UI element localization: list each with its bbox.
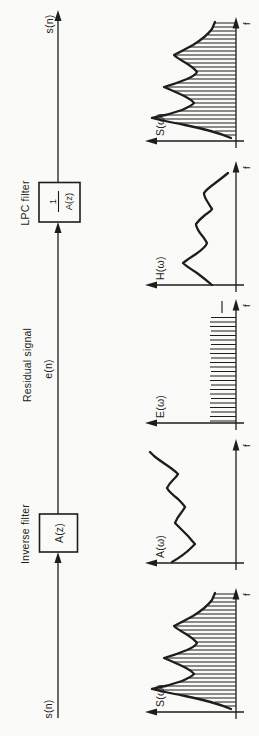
output-signal-label: s(n)	[43, 15, 55, 34]
lpc-filter-title: LPC filter	[19, 180, 31, 225]
lpc-filter-box	[39, 183, 80, 223]
frequency-axis-arrowhead-icon	[233, 299, 240, 311]
arrowhead-output-icon	[55, 10, 62, 21]
amplitude-axis-arrowhead-icon	[145, 281, 157, 288]
input-signal-label: s(n)	[42, 700, 54, 719]
spectrum-label: E(ω)	[154, 395, 166, 418]
spectrum-s-output: S(ω) f	[145, 17, 252, 148]
spectrum-label: H(ω)	[154, 256, 166, 280]
frequency-axis-label: f	[241, 166, 252, 169]
frequency-axis-label: f	[241, 304, 252, 307]
frequency-axis-label: f	[241, 22, 252, 25]
arrowhead-into-lpc-filter-icon	[55, 222, 62, 233]
frequency-axis-label: f	[241, 593, 252, 596]
inverse-filter-title: Inverse filter	[19, 504, 31, 564]
lpc-analysis-synthesis-diagram: s(n) Inverse filter A(z) Residual signal…	[0, 0, 259, 736]
amplitude-axis-arrowhead-icon	[145, 708, 157, 715]
arrowhead-into-inverse-filter-icon	[55, 552, 62, 563]
lpc-fraction-numerator: 1	[47, 199, 58, 204]
frequency-axis-label: f	[241, 444, 252, 447]
formant-envelope-curve	[183, 173, 228, 285]
residual-signal-title: Residual signal	[21, 328, 33, 402]
residual-signal-label: e(n)	[42, 359, 54, 378]
spectrum-s-input: S(ω) f	[145, 588, 252, 719]
harmonic-comb	[157, 594, 236, 706]
inverse-filter-box-label: A(z)	[53, 523, 65, 543]
page: { "figure": { "flow": { "input_label": "…	[0, 0, 259, 736]
spectrum-h: H(ω) f	[145, 161, 252, 292]
block-diagram: s(n) Inverse filter A(z) Residual signal…	[19, 10, 80, 718]
flat-harmonic-comb	[210, 318, 236, 422]
rotated-figure-stage: s(n) Inverse filter A(z) Residual signal…	[0, 0, 259, 736]
frequency-axis-arrowhead-icon	[233, 439, 240, 451]
amplitude-axis-arrowhead-icon	[145, 137, 157, 144]
frequency-axis-arrowhead-icon	[233, 161, 240, 173]
spectrum-e: E(ω) f	[145, 299, 252, 430]
harmonic-comb	[157, 23, 236, 135]
lpc-fraction-denominator: A(z)	[63, 193, 74, 210]
amplitude-axis-arrowhead-icon	[145, 559, 157, 566]
spectrum-a: A(ω) f	[145, 439, 252, 570]
spectrum-label: A(ω)	[154, 535, 166, 558]
amplitude-axis-arrowhead-icon	[145, 419, 157, 426]
